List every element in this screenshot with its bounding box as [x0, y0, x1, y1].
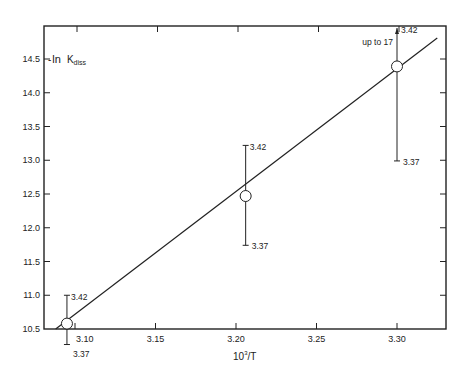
- x-tick-label: 3.10: [76, 334, 94, 344]
- fit-line: [56, 38, 438, 329]
- y-tick-label: 12.5: [22, 189, 40, 199]
- y-tick-label: 14.5: [22, 54, 40, 64]
- y-tick-label: 13.5: [22, 122, 40, 132]
- data-point: 3.423.37: [61, 292, 89, 358]
- y-tick-label: 10.5: [22, 324, 40, 334]
- annotation-note: up to 17: [362, 37, 393, 47]
- x-axis-label: 103/T: [233, 350, 256, 362]
- y-axis-label: -lnKdiss: [48, 53, 87, 66]
- y-tick-label: 11.0: [23, 290, 40, 300]
- error-low-label: 3.37: [403, 157, 420, 167]
- x-tick-label: 3.30: [388, 334, 406, 344]
- data-marker: [61, 318, 72, 329]
- x-tick-label: 3.15: [147, 334, 165, 344]
- y-tick-label: 14.0: [22, 88, 40, 98]
- data-points: 3.423.373.423.37up to 173.423.37: [61, 25, 419, 359]
- error-high-label: 3.42: [401, 25, 418, 35]
- data-marker: [240, 191, 251, 202]
- y-tick-label: 12.0: [22, 223, 40, 233]
- error-high-label: 3.42: [71, 292, 88, 302]
- arrow-up-icon: [395, 28, 399, 34]
- data-point: up to 173.423.37: [362, 25, 420, 167]
- error-high-label: 3.42: [250, 142, 267, 152]
- error-low-label: 3.37: [252, 241, 269, 251]
- x-axis: 3.103.153.203.253.30: [75, 26, 406, 344]
- y-tick-label: 13.0: [22, 155, 40, 165]
- data-point: 3.423.37: [240, 142, 268, 251]
- x-tick-label: 3.25: [308, 334, 326, 344]
- y-tick-label: 11.5: [23, 257, 40, 267]
- chart: 10.511.011.512.012.513.013.514.014.5 3.1…: [0, 0, 470, 385]
- data-marker: [392, 61, 403, 72]
- error-low-label: 3.37: [73, 349, 90, 359]
- x-tick-label: 3.20: [227, 334, 245, 344]
- plot-frame: [44, 26, 446, 329]
